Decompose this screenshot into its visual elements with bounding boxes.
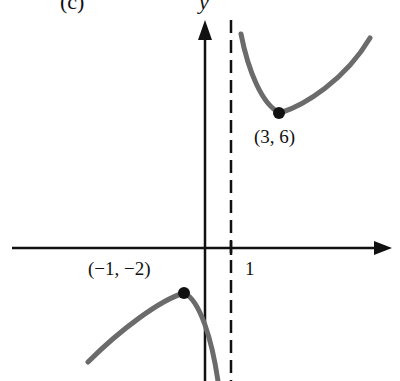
x-tick-label-1: 1	[245, 259, 255, 278]
y-axis-label: y	[199, 0, 209, 13]
min-point-marker	[273, 107, 285, 119]
graph-canvas	[0, 0, 400, 381]
left-branch-curve	[88, 293, 218, 381]
y-axis-arrow-icon	[198, 20, 212, 40]
max-point-label: (−1, −2)	[88, 259, 151, 278]
max-point-marker	[178, 287, 190, 299]
min-point-label: (3, 6)	[254, 127, 295, 146]
right-branch-curve	[241, 34, 370, 113]
x-axis-arrow-icon	[374, 241, 392, 255]
panel-label: (c)	[60, 0, 84, 13]
